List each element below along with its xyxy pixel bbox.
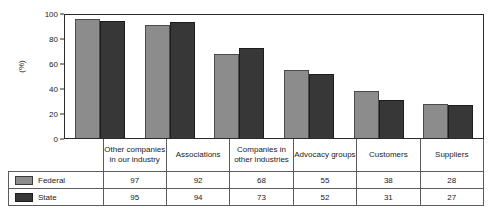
category-label-line1: Customers: [369, 150, 408, 159]
bar-group: [65, 15, 135, 138]
y-axis-ticks: 100 80 60 40 20 0: [30, 14, 64, 139]
category-header-cell: Companies in other industries: [230, 139, 293, 172]
category-label-line1: Other companies: [104, 145, 165, 154]
table-header-row: Other companies in our industry Associat…: [9, 139, 484, 172]
table-row: State 95 94 73 52 31 27: [9, 189, 484, 206]
y-tick-label-60: 60: [49, 60, 58, 69]
bar-state: [309, 74, 334, 138]
legend-item-federal: Federal: [9, 172, 104, 189]
category-header-cell: Suppliers: [420, 139, 483, 172]
y-tick-label-80: 80: [49, 35, 58, 44]
data-table: Other companies in our industry Associat…: [8, 139, 484, 206]
table-cell: 95: [103, 189, 166, 206]
category-label-line1: Companies in: [237, 145, 286, 154]
bar-federal: [145, 25, 170, 138]
table-cell: 52: [293, 189, 356, 206]
bar-federal: [423, 104, 448, 138]
table-cell: 28: [420, 172, 483, 189]
category-header-cell: Other companies in our industry: [103, 139, 166, 172]
table-cell: 73: [230, 189, 293, 206]
bar-federal: [354, 91, 379, 138]
category-label-line1: Advocacy groups: [294, 150, 355, 159]
y-tick-label-40: 40: [49, 85, 58, 94]
y-tick-label-20: 20: [49, 110, 58, 119]
legend-label-state: State: [38, 193, 57, 202]
category-header-cell: Associations: [166, 139, 229, 172]
bar-state: [170, 22, 195, 138]
bar-group: [413, 15, 483, 138]
category-label-line1: Associations: [176, 150, 221, 159]
bar-group: [344, 15, 414, 138]
table-cell: 97: [103, 172, 166, 189]
category-label-line1: Suppliers: [435, 150, 468, 159]
legend-label-federal: Federal: [38, 176, 65, 185]
bar-state: [239, 48, 264, 138]
table-cell: 31: [357, 189, 420, 206]
bar-group: [274, 15, 344, 138]
plot-area: [64, 14, 484, 139]
bar-group: [135, 15, 205, 138]
table-cell: 27: [420, 189, 483, 206]
legend-swatch-icon-state: [15, 193, 33, 202]
legend-swatch-icon-federal: [15, 176, 33, 185]
category-header-cell: Customers: [357, 139, 420, 172]
y-tick-label-100: 100: [45, 10, 58, 19]
bar-group: [204, 15, 274, 138]
bar-state: [100, 21, 125, 138]
table-cell: 92: [166, 172, 229, 189]
legend-spacer-cell: [9, 139, 104, 172]
legend-item-state: State: [9, 189, 104, 206]
table-cell: 68: [230, 172, 293, 189]
category-label-line2: other industries: [234, 155, 289, 164]
category-label-line2: in our industry: [110, 155, 160, 164]
y-axis-label: (%): [17, 60, 26, 74]
table-cell: 94: [166, 189, 229, 206]
table-cell: 38: [357, 172, 420, 189]
table-row: Federal 97 92 68 55 38 28: [9, 172, 484, 189]
bar-groups: [65, 15, 483, 138]
bar-federal: [75, 19, 100, 138]
bar-federal: [284, 70, 309, 138]
bar-chart-figure: (%) 100 80 60 40 20 0: [0, 0, 501, 222]
bar-state: [379, 100, 404, 138]
table-cell: 55: [293, 172, 356, 189]
bar-state: [448, 105, 473, 138]
category-header-cell: Advocacy groups: [293, 139, 356, 172]
bar-federal: [214, 54, 239, 138]
